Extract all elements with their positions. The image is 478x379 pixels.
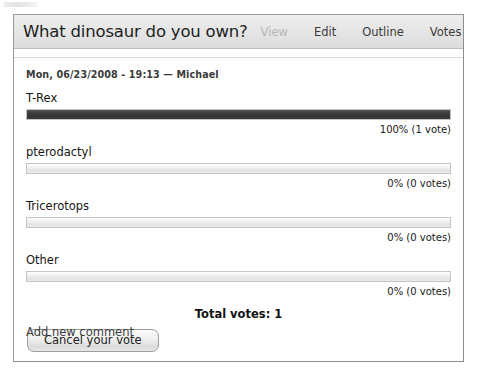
poll-choice-label: Tricerotops [26, 199, 451, 213]
poll-choice-result: 0% (0 votes) [26, 286, 451, 298]
poll-choice-row: Other 0% (0 votes) [26, 253, 451, 298]
header-divider [14, 49, 463, 58]
poll-bar-track [26, 109, 451, 120]
node-header: What dinosaur do you own? View Edit Outl… [14, 15, 463, 49]
total-votes: Total votes: 1 [26, 307, 451, 321]
poll-choice-result: 0% (0 votes) [26, 232, 451, 244]
poll-choice-row: T-Rex 100% (1 vote) [26, 91, 451, 136]
poll-choice-result: 0% (0 votes) [26, 178, 451, 190]
poll-choice-label: T-Rex [26, 91, 451, 105]
add-new-comment-link[interactable]: Add new comment [26, 325, 134, 339]
poll-choice-row: Tricerotops 0% (0 votes) [26, 199, 451, 244]
poll-choice-label: Other [26, 253, 451, 267]
poll-bar-track [26, 271, 451, 282]
node-body: Mon, 06/23/2008 - 19:13 — Michael T-Rex … [14, 58, 463, 352]
poll-bar-fill [27, 110, 450, 119]
node-tabs: View Edit Outline Votes [248, 25, 478, 39]
page-title: What dinosaur do you own? [23, 22, 248, 41]
poll-node-panel: What dinosaur do you own? View Edit Outl… [13, 14, 464, 362]
submitted-byline: Mon, 06/23/2008 - 19:13 — Michael [26, 69, 451, 80]
poll-bar-track [26, 217, 451, 228]
scan-artifact [4, 2, 38, 7]
tab-votes[interactable]: Votes [417, 25, 475, 39]
tab-edit[interactable]: Edit [301, 25, 349, 39]
poll-bar-track [26, 163, 451, 174]
poll-choice-result: 100% (1 vote) [26, 124, 451, 136]
node-links: Add new comment [14, 321, 146, 340]
tab-view[interactable]: View [248, 25, 301, 39]
poll-choice-label: pterodactyl [26, 145, 451, 159]
poll-choice-row: pterodactyl 0% (0 votes) [26, 145, 451, 190]
tab-outline[interactable]: Outline [349, 25, 417, 39]
